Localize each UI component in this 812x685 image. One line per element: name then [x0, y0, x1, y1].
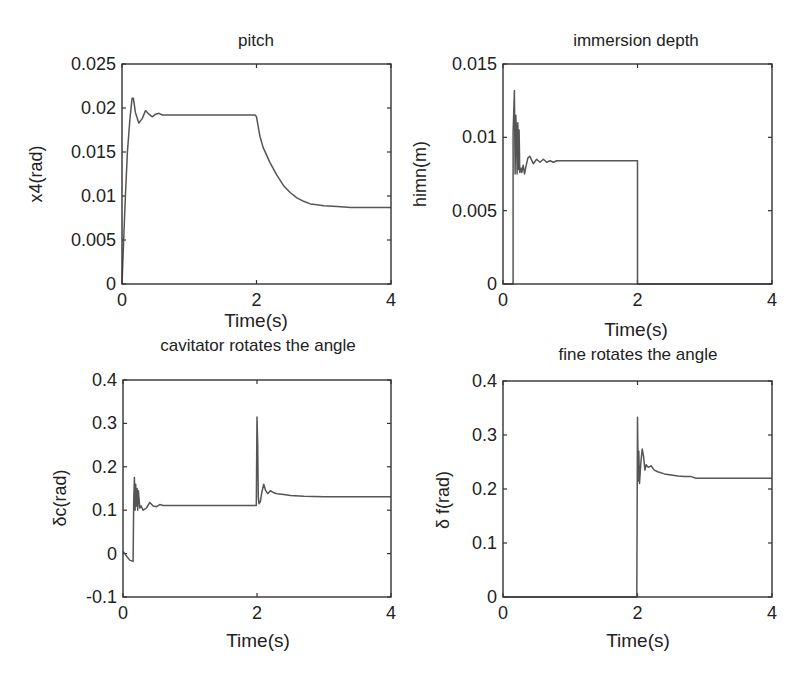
y-tick-label: 0.1: [92, 500, 117, 520]
panel-title: pitch: [238, 31, 274, 50]
y-tick-label: 0.005: [452, 201, 497, 221]
x-tick-label: 2: [632, 603, 642, 623]
panel-title: cavitator rotates the angle: [160, 336, 356, 355]
y-tick-label: 0.005: [71, 230, 116, 250]
x-tick-label: 2: [632, 290, 642, 310]
panel-title: immersion depth: [573, 31, 699, 50]
panel-fine-angle: fine rotates the angle Time(s) δ f(rad) …: [433, 345, 777, 651]
y-tick-label: 0.3: [92, 413, 117, 433]
series-line: [503, 90, 772, 284]
panel-cavitator-angle: cavitator rotates the angle Time(s) δc(r…: [50, 336, 396, 651]
y-axis-label: δc(rad): [50, 469, 70, 526]
axes-frame: [122, 64, 391, 284]
x-tick-label: 0: [118, 603, 128, 623]
x-tick-label: 0: [498, 290, 508, 310]
y-axis-label: δ f(rad): [433, 471, 453, 529]
y-tick-label: 0.025: [71, 54, 116, 74]
x-axis-label: Time(s): [224, 310, 288, 331]
y-tick-label: 0.015: [452, 54, 497, 74]
series-line: [122, 98, 391, 284]
panel-immersion-depth: immersion depth Time(s) himn(m) 02400.00…: [410, 31, 777, 340]
x-axis-label: Time(s): [226, 630, 290, 651]
y-axis-label: x4(rad): [26, 145, 46, 202]
y-tick-label: 0.015: [71, 142, 116, 162]
y-tick-label: 0: [487, 587, 497, 607]
series-line: [503, 417, 772, 597]
x-tick-label: 4: [767, 290, 777, 310]
series-line: [123, 417, 391, 562]
x-tick-label: 0: [498, 603, 508, 623]
y-tick-label: 0: [106, 274, 116, 294]
panel-pitch: pitch Time(s) x4(rad) 02400.0050.010.015…: [26, 31, 396, 331]
panel-title: fine rotates the angle: [559, 345, 718, 364]
y-tick-label: 0: [107, 544, 117, 564]
x-tick-label: 2: [251, 290, 261, 310]
x-axis-label: Time(s): [604, 319, 668, 340]
y-tick-label: 0.2: [92, 457, 117, 477]
y-tick-label: 0.4: [92, 370, 117, 390]
y-tick-label: 0.01: [81, 186, 116, 206]
x-tick-label: 2: [252, 603, 262, 623]
y-axis-label: himn(m): [410, 141, 430, 207]
x-tick-label: 0: [117, 290, 127, 310]
x-tick-label: 4: [386, 290, 396, 310]
y-tick-label: 0.1: [472, 533, 497, 553]
y-tick-label: 0.01: [462, 127, 497, 147]
x-tick-label: 4: [767, 603, 777, 623]
y-tick-label: 0: [487, 274, 497, 294]
axis-ticks: 02400.0050.010.015: [452, 54, 777, 310]
x-tick-label: 4: [386, 603, 396, 623]
axis-ticks: 02400.10.20.30.4: [472, 371, 777, 623]
axis-ticks: 02400.0050.010.0150.020.025: [71, 54, 396, 310]
y-tick-label: 0.02: [81, 98, 116, 118]
figure: pitch Time(s) x4(rad) 02400.0050.010.015…: [0, 0, 812, 685]
y-tick-label: 0.3: [472, 425, 497, 445]
y-tick-label: 0.4: [472, 371, 497, 391]
y-tick-label: -0.1: [86, 587, 117, 607]
y-tick-label: 0.2: [472, 479, 497, 499]
x-axis-label: Time(s): [606, 630, 670, 651]
